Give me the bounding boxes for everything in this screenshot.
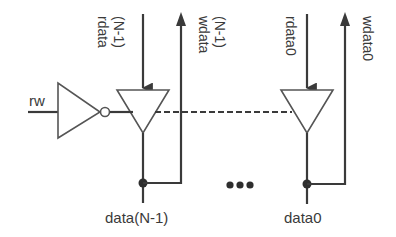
- wdata0-arrow-icon: [340, 12, 350, 26]
- diagram-canvas: rw rdata (N-1) wdata (N-1) data(N-1): [0, 0, 396, 237]
- wdata-n-1-arrow-icon: [176, 12, 186, 26]
- inverter-bubble-icon: [101, 108, 110, 117]
- rdata0-label: rdata0: [283, 16, 299, 56]
- wdata0-label: wdata0: [360, 15, 376, 61]
- rdata-n-1-index-label: (N-1): [111, 16, 127, 48]
- buffer-0-triangle-icon: [281, 90, 333, 133]
- wdata-n-1-index-label: (N-1): [212, 16, 228, 48]
- inverter-triangle-icon: [58, 83, 100, 138]
- bit-0-driver: rdata0 wdata0 data0: [281, 12, 376, 226]
- data-n-1-label: data(N-1): [105, 209, 168, 226]
- rdata-n-1-label: rdata: [95, 16, 111, 48]
- rw-label: rw: [29, 92, 45, 109]
- wdata-n-1-label: wdata: [196, 15, 212, 54]
- ellipsis-icon: [226, 181, 253, 188]
- bit-n-1-driver: rdata (N-1) wdata (N-1) data(N-1): [95, 12, 228, 226]
- data0-label: data0: [284, 209, 322, 226]
